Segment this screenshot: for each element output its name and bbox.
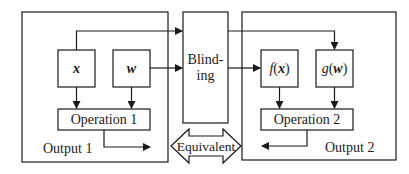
input-w-label: w (127, 61, 137, 76)
operation-2-label: Operation 2 (274, 112, 340, 127)
blinding-label-line2: ing (197, 68, 215, 83)
operation-1-label: Operation 1 (71, 112, 137, 127)
x-to-blinding-arrow (77, 31, 183, 50)
output-2-label: Output 2 (325, 140, 374, 155)
blinding-to-gw-arrow (228, 31, 335, 49)
diagram-canvas: x w Operation 1 Output 1 Blind- ing f(x)… (0, 0, 409, 174)
blinding-label-line1: Blind- (188, 52, 224, 67)
input-x-label: x (72, 61, 80, 76)
gw-label: g(w) (322, 61, 348, 77)
op2-output-arrow (262, 130, 307, 146)
output-1-label: Output 1 (43, 141, 92, 156)
right-panel-box (242, 12, 396, 160)
op1-output-arrow (104, 130, 150, 147)
fx-label: f(x) (269, 61, 290, 77)
equivalent-label: Equivalent (177, 139, 236, 154)
